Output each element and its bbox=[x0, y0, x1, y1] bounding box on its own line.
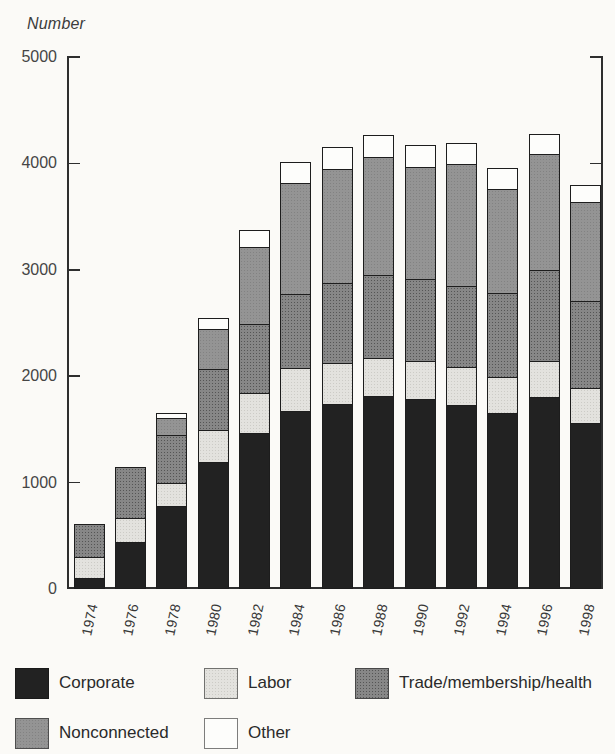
y-tick-label-1000: 1000 bbox=[0, 474, 57, 492]
pac-count-stacked-bar-chart: Number 500040003000200010000197419761978… bbox=[0, 0, 615, 754]
bar-segment-1992-nonconnected bbox=[447, 164, 476, 285]
bar-1988 bbox=[363, 135, 394, 589]
bar-segment-1978-nonconnected bbox=[157, 418, 186, 436]
bar-1992 bbox=[446, 143, 477, 589]
bar-segment-1998-nonconnected bbox=[571, 202, 600, 301]
bar-1994 bbox=[487, 168, 518, 589]
bar-segment-1976-labor bbox=[116, 518, 145, 542]
bar-segment-1996-other bbox=[530, 135, 559, 154]
bar-segment-1988-other bbox=[364, 136, 393, 157]
bar-segment-1992-labor bbox=[447, 367, 476, 404]
bar-segment-1980-other bbox=[199, 319, 228, 329]
bar-1996 bbox=[529, 134, 560, 589]
bar-segment-1998-labor bbox=[571, 388, 600, 423]
bar-segment-1986-trade-membership-health bbox=[323, 283, 352, 362]
bar-segment-1984-labor bbox=[281, 368, 310, 410]
y-tick-label-3000: 3000 bbox=[0, 261, 57, 279]
bar-1982 bbox=[239, 230, 270, 589]
bar-segment-1988-corporate bbox=[364, 396, 393, 588]
bar-segment-1998-other bbox=[571, 186, 600, 202]
bar-segment-1998-corporate bbox=[571, 423, 600, 588]
y-tick-label-0: 0 bbox=[0, 580, 57, 598]
bar-segment-1982-other bbox=[240, 231, 269, 247]
legend-label-labor: Labor bbox=[248, 673, 291, 693]
bar-1978 bbox=[156, 413, 187, 589]
bar-segment-1986-labor bbox=[323, 363, 352, 404]
bar-segment-1982-corporate bbox=[240, 433, 269, 588]
legend-item-trade: Trade/membership/health bbox=[355, 667, 592, 699]
bar-segment-1994-nonconnected bbox=[488, 189, 517, 293]
bar-1984 bbox=[280, 162, 311, 589]
bar-segment-1988-labor bbox=[364, 358, 393, 396]
bar-segment-1990-corporate bbox=[406, 399, 435, 588]
bar-segment-1986-nonconnected bbox=[323, 169, 352, 283]
bar-segment-1978-trade-membership-health bbox=[157, 435, 186, 483]
bar-segment-1978-labor bbox=[157, 483, 186, 506]
bar-segment-1996-trade-membership-health bbox=[530, 270, 559, 361]
bar-1980 bbox=[198, 318, 229, 589]
bar-segment-1994-corporate bbox=[488, 413, 517, 588]
bar-segment-1988-trade-membership-health bbox=[364, 275, 393, 359]
legend-label-trade: Trade/membership/health bbox=[399, 673, 592, 693]
other-swatch-icon bbox=[204, 718, 238, 749]
legend-item-other: Other bbox=[204, 717, 291, 749]
bar-segment-1984-trade-membership-health bbox=[281, 294, 310, 368]
y-tick-left-1000 bbox=[67, 482, 80, 484]
y-tick-right-5000 bbox=[590, 56, 603, 58]
bar-segment-1986-corporate bbox=[323, 404, 352, 588]
bar-segment-1976-trade-membership-health bbox=[116, 468, 145, 518]
y-tick-left-5000 bbox=[67, 56, 80, 58]
bar-segment-1982-nonconnected bbox=[240, 247, 269, 324]
bar-segment-1992-trade-membership-health bbox=[447, 286, 476, 368]
bar-segment-1996-nonconnected bbox=[530, 154, 559, 270]
bar-segment-1990-other bbox=[406, 146, 435, 166]
bar-segment-1994-labor bbox=[488, 377, 517, 413]
bar-1990 bbox=[405, 145, 436, 589]
bar-segment-1992-corporate bbox=[447, 405, 476, 588]
bar-segment-1982-trade-membership-health bbox=[240, 324, 269, 393]
labor-swatch-icon bbox=[204, 668, 238, 699]
y-tick-label-2000: 2000 bbox=[0, 367, 57, 385]
trade-swatch-icon bbox=[355, 668, 389, 699]
legend-item-labor: Labor bbox=[204, 667, 291, 699]
y-tick-label-4000: 4000 bbox=[0, 154, 57, 172]
nonconnected-swatch-icon bbox=[15, 718, 49, 749]
bar-segment-1984-other bbox=[281, 163, 310, 182]
bar-1998 bbox=[570, 185, 601, 589]
y-tick-left-4000 bbox=[67, 163, 80, 165]
y-tick-label-5000: 5000 bbox=[0, 48, 57, 66]
y-axis-left bbox=[67, 56, 69, 589]
bar-segment-1990-nonconnected bbox=[406, 167, 435, 279]
legend-label-nonconnected: Nonconnected bbox=[59, 723, 169, 743]
bar-segment-1974-trade-membership-health bbox=[75, 525, 104, 557]
legend-label-other: Other bbox=[248, 723, 291, 743]
bar-segment-1990-labor bbox=[406, 361, 435, 398]
legend-item-corporate: Corporate bbox=[15, 667, 135, 699]
corporate-swatch-icon bbox=[15, 668, 49, 699]
bar-segment-1984-corporate bbox=[281, 411, 310, 588]
bar-segment-1990-trade-membership-health bbox=[406, 279, 435, 361]
bar-segment-1980-nonconnected bbox=[199, 329, 228, 369]
legend-label-corporate: Corporate bbox=[59, 673, 135, 693]
y-axis-title: Number bbox=[27, 15, 85, 33]
bar-segment-1996-labor bbox=[530, 361, 559, 397]
y-tick-right-4000 bbox=[590, 163, 603, 165]
bar-segment-1980-corporate bbox=[199, 462, 228, 588]
bar-segment-1980-labor bbox=[199, 430, 228, 462]
bar-segment-1982-labor bbox=[240, 393, 269, 434]
y-tick-left-3000 bbox=[67, 269, 80, 271]
bar-segment-1984-nonconnected bbox=[281, 183, 310, 294]
legend-item-nonconnected: Nonconnected bbox=[15, 717, 169, 749]
bar-1986 bbox=[322, 147, 353, 589]
bar-segment-1994-trade-membership-health bbox=[488, 293, 517, 377]
y-tick-left-2000 bbox=[67, 375, 80, 377]
bar-segment-1986-other bbox=[323, 148, 352, 170]
bar-segment-1980-trade-membership-health bbox=[199, 369, 228, 430]
bar-segment-1998-trade-membership-health bbox=[571, 301, 600, 388]
bar-segment-1992-other bbox=[447, 144, 476, 165]
bar-segment-1988-nonconnected bbox=[364, 157, 393, 275]
bar-segment-1994-other bbox=[488, 169, 517, 189]
y-axis-right bbox=[601, 56, 603, 589]
bar-segment-1996-corporate bbox=[530, 397, 559, 588]
